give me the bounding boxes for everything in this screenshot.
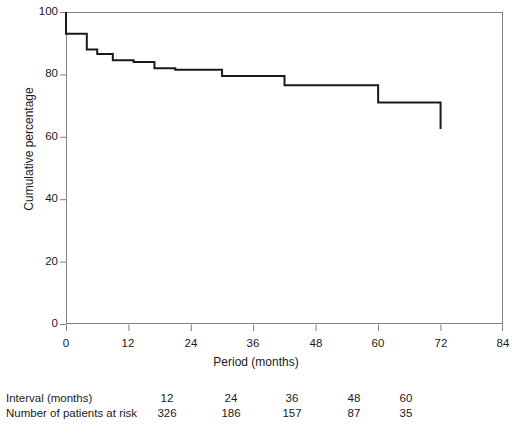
risk-count-60: 35	[385, 406, 427, 421]
risk-interval-36: 36	[271, 391, 313, 406]
risk-table-row-interval: Interval (months) 12 24 36 48 60	[6, 391, 506, 406]
y-tick-marks	[60, 13, 66, 325]
risk-count-12: 326	[146, 406, 188, 421]
risk-count-48: 87	[333, 406, 375, 421]
risk-interval-48: 48	[333, 391, 375, 406]
risk-interval-12: 12	[146, 391, 188, 406]
risk-count-36: 157	[271, 406, 313, 421]
risk-table-row-at-risk: Number of patients at risk 326 186 157 8…	[6, 406, 506, 421]
kaplan-meier-figure: 100 80 60 40 20 0 0 12 24 36 48 60 72 84…	[0, 0, 512, 434]
survival-step-curve	[66, 12, 441, 129]
x-tick-marks	[67, 325, 503, 332]
risk-row-label-at-risk: Number of patients at risk	[6, 406, 137, 421]
risk-row-label-interval: Interval (months)	[6, 391, 92, 406]
chart-canvas	[0, 0, 512, 434]
risk-table: Interval (months) 12 24 36 48 60 Number …	[6, 391, 506, 421]
risk-interval-60: 60	[385, 391, 427, 406]
risk-interval-24: 24	[210, 391, 252, 406]
risk-count-24: 186	[210, 406, 252, 421]
